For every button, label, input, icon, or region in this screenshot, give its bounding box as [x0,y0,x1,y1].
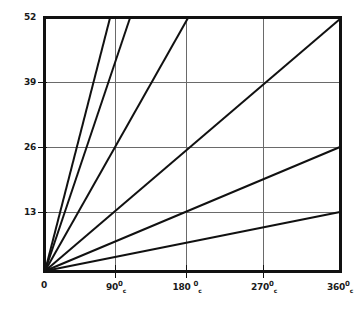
x-tick-label-180: 180 0c [166,281,208,294]
x-tick-270-value: 270 [251,282,269,292]
x-tick-label-270: 2700c [243,281,285,294]
y-tick-label-39: 39 [6,78,36,87]
x-tick-0-value: 0 [41,280,47,290]
x-tick-label-360: 3600c [319,281,361,294]
x-tick-label-0: 0 [26,281,62,290]
x-tick-360-value: 360 [327,282,345,292]
x-tick-label-90: 900c [96,281,136,294]
unit-label-270: c [274,287,277,294]
y-tick-label-13: 13 [6,208,36,217]
chart-container: 52 39 26 13 0 900c 180 0c 2700c 3600c [0,0,362,314]
chart-canvas [0,0,362,314]
unit-label-360: c [350,287,353,294]
unit-label-90: c [123,287,126,294]
y-tick-label-52: 52 [6,13,36,22]
x-tick-90-value: 90 [106,282,118,292]
y-tick-label-26: 26 [6,143,36,152]
x-tick-180-value: 180 [172,282,193,292]
unit-label-180: c [198,287,201,294]
